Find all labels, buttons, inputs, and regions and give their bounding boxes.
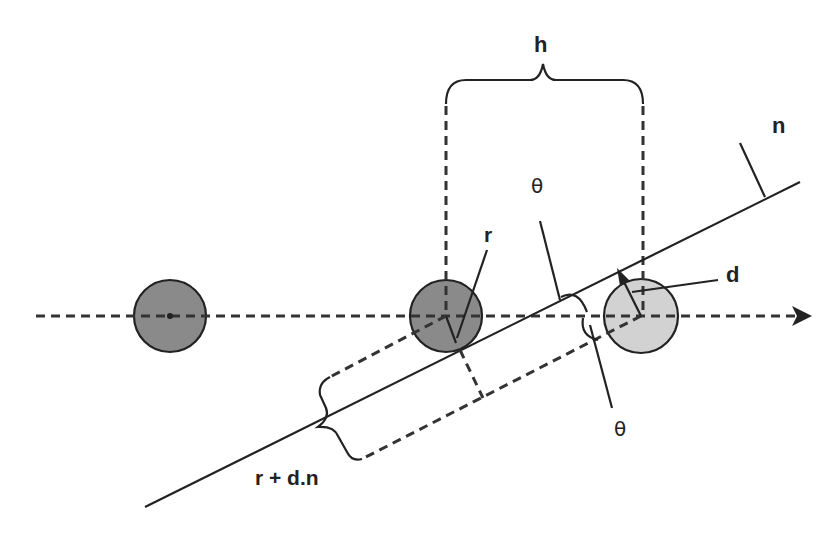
r-label: r [484,223,492,246]
h-brace [446,64,643,104]
middle-perp-guide [460,350,483,398]
d-label: d [726,262,739,287]
h-label: h [534,32,547,57]
rdn-label: r + d.n [255,466,319,489]
theta-top-leader [540,221,560,300]
collision-diagram: h n r r + d.n θ θ d [0,0,834,538]
normal-tick [740,143,765,197]
n-label: n [772,113,785,138]
theta-bottom-label: θ [614,417,626,441]
rdn-brace [318,377,362,460]
theta-top-arc [561,295,587,312]
left-center-dot [167,313,173,319]
plane-line [145,182,800,507]
theta-top-label: θ [531,174,543,198]
